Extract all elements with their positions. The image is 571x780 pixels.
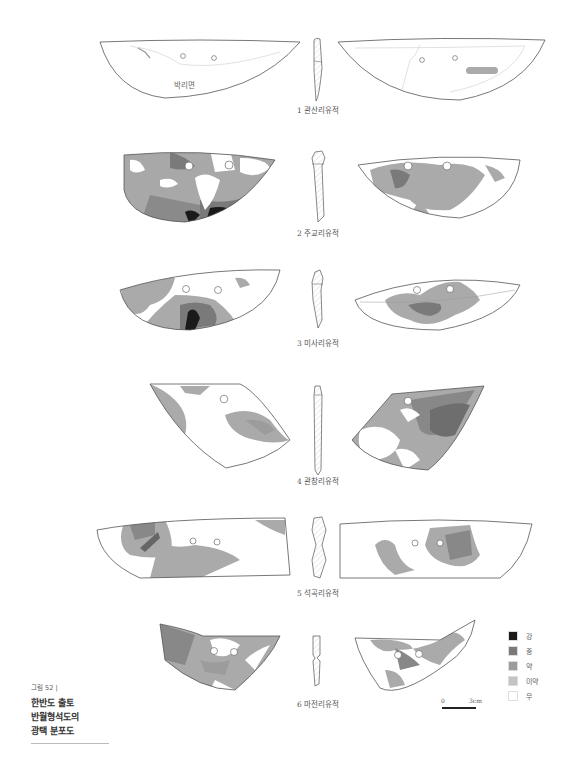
scale-end-label: 3cm [469, 697, 482, 704]
gloss-distribution-figure: 박리면 [0, 0, 571, 780]
caption-divider [31, 743, 109, 744]
artifact-6-right-face [350, 615, 480, 695]
legend-label: 중 [526, 646, 532, 656]
legend-label: 무 [526, 691, 532, 701]
artifact-1-left-face-text: 박리면 [174, 80, 195, 90]
legend-item-faint: 미약 [508, 673, 538, 688]
artifact-1-label: 1 관산리유적 [297, 104, 339, 115]
caption-line: 반월형석도의 [31, 710, 109, 724]
figure-caption: 그림 52 | 한반도 출토 반월형석도의 광택 분포도 [31, 682, 109, 744]
artifact-5-left-face [95, 515, 295, 580]
caption-line: 한반도 출토 [31, 696, 109, 710]
legend-swatch-weak [508, 661, 518, 671]
artifact-4-cross-section [314, 386, 322, 475]
artifact-2-cross-section [312, 151, 325, 222]
legend-item-medium: 중 [508, 643, 538, 658]
artifact-2-right-face [350, 150, 525, 225]
artifact-4-right-face [350, 382, 490, 474]
artifact-3-right-face [350, 265, 525, 335]
legend-label: 미약 [526, 676, 538, 686]
artifact-1-cross-section [314, 38, 322, 101]
artifact-2-left-face [120, 145, 280, 225]
legend-swatch-faint [508, 676, 518, 686]
scale-bar-line [442, 707, 476, 709]
artifact-3-left-face [115, 265, 285, 335]
legend-item-none: 무 [508, 688, 538, 703]
legend-swatch-strong [508, 631, 518, 641]
artifact-4-left-face [145, 380, 295, 475]
artifact-4-label: 4 관창리유적 [297, 475, 339, 486]
artifact-1-right-face [338, 38, 545, 100]
artifact-5-right-face [338, 515, 538, 580]
legend-swatch-medium [508, 646, 518, 656]
caption-line: 광택 분포도 [31, 724, 109, 738]
artifact-1-left-face [100, 40, 300, 98]
legend-label: 강 [526, 631, 532, 641]
scale-start-label: 0 [441, 697, 445, 704]
legend-swatch-none [508, 691, 518, 701]
artifact-5-cross-section [312, 517, 326, 578]
gloss-legend: 강 중 약 미약 무 [508, 628, 538, 703]
artifact-3-cross-section [312, 270, 323, 328]
artifact-5-label: 5 석곡리유적 [297, 587, 339, 598]
legend-item-weak: 약 [508, 658, 538, 673]
artifact-2-label: 2 주교리유적 [297, 227, 339, 238]
artifact-6-left-face [155, 620, 285, 695]
legend-item-strong: 강 [508, 628, 538, 643]
caption-number: 그림 52 | [31, 682, 109, 692]
artifact-3-label: 3 미사리유적 [297, 337, 339, 348]
artifact-6-cross-section [313, 636, 320, 686]
legend-label: 약 [526, 661, 532, 671]
artifact-6-label: 6 마전리유적 [297, 698, 339, 709]
